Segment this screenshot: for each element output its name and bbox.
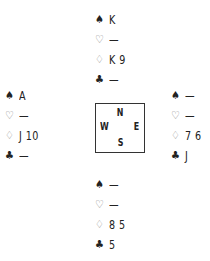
heart-icon: ♡: [95, 195, 109, 215]
south-clubs: ♣5: [95, 235, 130, 255]
club-icon: ♣: [171, 146, 185, 166]
south-diamonds: ♢8 5: [95, 215, 130, 235]
compass-west: W: [100, 120, 109, 133]
club-icon: ♣: [5, 146, 19, 166]
diamond-icon: ♢: [95, 50, 109, 70]
east-hearts: ♡—: [171, 106, 206, 126]
north-diamonds: ♢K 9: [95, 50, 130, 70]
compass-east: E: [134, 120, 139, 133]
west-hearts: ♡—: [5, 106, 44, 126]
east-clubs: ♣J: [171, 146, 206, 166]
spade-icon: ♠: [5, 86, 19, 106]
south-spades: ♠—: [95, 175, 130, 195]
north-spades: ♠K: [95, 10, 130, 30]
compass-box: N W E S: [95, 103, 145, 153]
compass-north: N: [117, 106, 124, 119]
diamond-icon: ♢: [171, 126, 185, 146]
west-hand: ♠A ♡— ♢J 10 ♣—: [5, 86, 44, 166]
compass-south: S: [118, 136, 124, 149]
north-hearts: ♡—: [95, 30, 130, 50]
heart-icon: ♡: [171, 106, 185, 126]
west-clubs: ♣—: [5, 146, 44, 166]
south-hearts: ♡—: [95, 195, 130, 215]
diamond-icon: ♢: [95, 215, 109, 235]
west-diamonds: ♢J 10: [5, 126, 44, 146]
east-spades: ♠—: [171, 86, 206, 106]
north-clubs: ♣—: [95, 70, 130, 90]
club-icon: ♣: [95, 235, 109, 255]
club-icon: ♣: [95, 70, 109, 90]
east-diamonds: ♢7 6: [171, 126, 206, 146]
spade-icon: ♠: [95, 10, 109, 30]
diamond-icon: ♢: [5, 126, 19, 146]
east-hand: ♠— ♡— ♢7 6 ♣J: [171, 86, 206, 166]
south-hand: ♠— ♡— ♢8 5 ♣5: [95, 175, 130, 255]
north-hand: ♠K ♡— ♢K 9 ♣—: [95, 10, 130, 90]
spade-icon: ♠: [95, 175, 109, 195]
heart-icon: ♡: [95, 30, 109, 50]
west-spades: ♠A: [5, 86, 44, 106]
spade-icon: ♠: [171, 86, 185, 106]
heart-icon: ♡: [5, 106, 19, 126]
